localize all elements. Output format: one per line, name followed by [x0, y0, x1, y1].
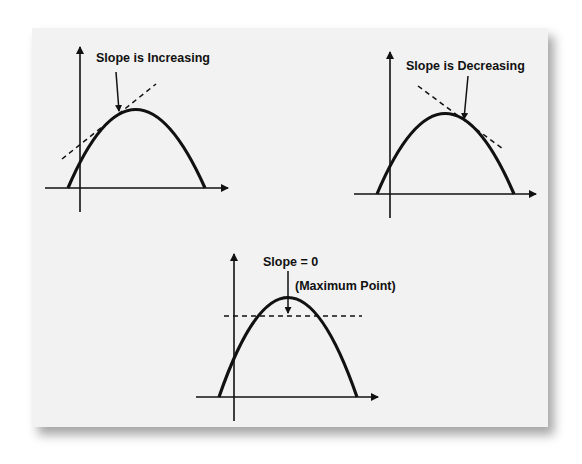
pointer-arrow	[464, 76, 468, 119]
panel-maximum: Slope = 0 (Maximum Point)	[196, 254, 396, 421]
panel-decreasing: Slope is Decreasing	[354, 52, 536, 218]
pointer-arrow	[116, 72, 119, 111]
slope-diagram: Slope is Increasing Slope is Decreasing …	[0, 0, 582, 464]
label-maximum-point: (Maximum Point)	[295, 279, 396, 293]
curve	[68, 110, 205, 189]
label-decreasing: Slope is Decreasing	[406, 59, 525, 73]
label-slope-zero: Slope = 0	[263, 255, 318, 269]
curve	[377, 114, 514, 195]
label-increasing: Slope is Increasing	[96, 51, 210, 65]
panel-increasing: Slope is Increasing	[45, 47, 228, 212]
